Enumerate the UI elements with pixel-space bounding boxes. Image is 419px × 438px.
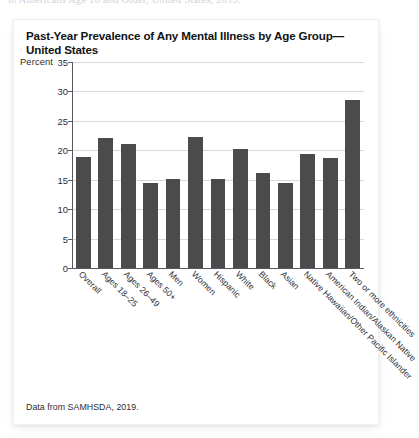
chart-plot-area: Percent 05101520253035 OverallAges 18–25… — [14, 20, 378, 424]
y-tick-label-20: 20 — [44, 145, 68, 156]
bar — [345, 100, 360, 268]
bar — [233, 149, 248, 268]
x-axis-label: American Indian/Alaskan Native — [324, 269, 418, 363]
clipped-header-text: in Americans Age 18 and Older, United St… — [8, 0, 368, 11]
y-tick-label-35: 35 — [44, 57, 68, 68]
x-axis-label: Asian — [279, 269, 301, 291]
bar — [98, 138, 113, 268]
source-note: Data from SAMHSDA, 2019. — [26, 402, 139, 412]
y-tick-label-15: 15 — [44, 174, 68, 185]
bar — [121, 144, 136, 268]
x-axis-label: Overall — [77, 269, 104, 296]
y-tick-label-5: 5 — [44, 233, 68, 244]
bar — [188, 137, 203, 268]
bar — [256, 173, 271, 268]
bar — [166, 179, 181, 268]
bar — [143, 183, 158, 268]
x-axis-labels: OverallAges 18–25Ages 26–49Ages 50+MenWo… — [72, 269, 372, 419]
y-tick-label-30: 30 — [44, 86, 68, 97]
x-axis-label: Black — [257, 269, 279, 291]
bar — [211, 179, 226, 268]
y-tick-label-25: 25 — [44, 115, 68, 126]
y-tick-label-10: 10 — [44, 204, 68, 215]
y-tick-label-0: 0 — [44, 263, 68, 274]
bar — [278, 183, 293, 268]
bar — [76, 157, 91, 268]
x-axis-label: Men — [167, 269, 186, 288]
bar — [300, 154, 315, 268]
bar — [323, 158, 338, 268]
bar-series — [72, 62, 364, 268]
chart-card: Past-Year Prevalence of Any Mental Illne… — [14, 20, 378, 424]
